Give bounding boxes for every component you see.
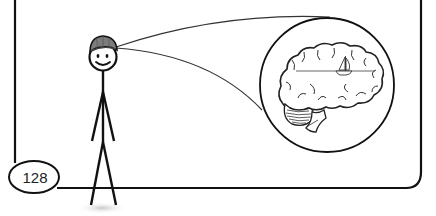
eye-left	[97, 54, 100, 58]
brain-magnifier	[260, 18, 394, 152]
illustration-canvas	[0, 0, 436, 216]
comic-panel: 128	[0, 0, 436, 216]
page-number-badge	[9, 161, 59, 193]
stick-figure	[90, 36, 118, 205]
eye-right	[106, 54, 109, 58]
ground-shadow	[76, 202, 128, 214]
